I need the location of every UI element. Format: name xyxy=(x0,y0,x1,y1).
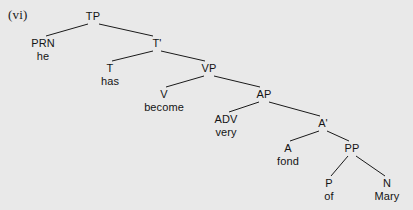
tree-node-tp: TP xyxy=(86,10,100,22)
node-category-label: T' xyxy=(152,37,161,49)
tree-branch-tbar-t xyxy=(112,51,153,61)
node-terminal-word: Mary xyxy=(375,190,400,202)
syntax-tree-figure: (vi) TPPRNheT'ThasVPVbecomeAPADVveryA'Af… xyxy=(0,0,413,210)
tree-branch-vp-ap xyxy=(214,76,260,87)
tree-branch-lines xyxy=(0,0,413,210)
tree-branch-abar-a xyxy=(290,131,319,141)
tree-node-vp: VP xyxy=(202,62,217,74)
tree-branch-ap-adv xyxy=(229,102,259,112)
node-category-label: A' xyxy=(318,117,328,129)
node-terminal-word: of xyxy=(324,190,333,202)
node-category-label: AP xyxy=(257,88,272,100)
node-category-label: P xyxy=(324,177,333,189)
tree-branch-pp-p xyxy=(331,156,348,176)
tree-branch-ap-abar xyxy=(269,102,320,116)
tree-branch-pp-n xyxy=(356,156,385,176)
tree-node-a: Afond xyxy=(277,142,299,167)
node-category-label: ADV xyxy=(215,113,238,125)
tree-node-prn: PRNhe xyxy=(31,37,55,62)
tree-node-ap: AP xyxy=(257,88,272,100)
tree-branch-abar-pp xyxy=(327,131,349,141)
tree-node-p: Pof xyxy=(324,177,333,202)
node-category-label: N xyxy=(375,177,400,189)
node-category-label: VP xyxy=(202,62,217,74)
tree-node-abar: A' xyxy=(318,117,328,129)
node-terminal-word: fond xyxy=(277,155,299,167)
node-terminal-word: has xyxy=(101,75,119,87)
node-category-label: PRN xyxy=(31,37,55,49)
node-category-label: TP xyxy=(86,10,100,22)
tree-node-v: Vbecome xyxy=(144,88,184,113)
tree-branch-tbar-vp xyxy=(161,51,205,61)
node-terminal-word: very xyxy=(215,126,238,138)
node-terminal-word: become xyxy=(144,101,184,113)
tree-branch-vp-v xyxy=(166,76,204,87)
tree-node-adv: ADVvery xyxy=(215,113,238,138)
tree-branch-tp-prn xyxy=(46,24,88,36)
node-category-label: A xyxy=(277,142,299,154)
node-category-label: PP xyxy=(345,142,360,154)
tree-branch-tp-tbar xyxy=(99,24,153,36)
node-terminal-word: he xyxy=(31,50,55,62)
tree-node-tbar: T' xyxy=(152,37,161,49)
node-category-label: V xyxy=(144,88,184,100)
tree-node-t: Thas xyxy=(101,62,119,87)
tree-node-n: NMary xyxy=(375,177,400,202)
tree-node-pp: PP xyxy=(345,142,360,154)
node-category-label: T xyxy=(101,62,119,74)
